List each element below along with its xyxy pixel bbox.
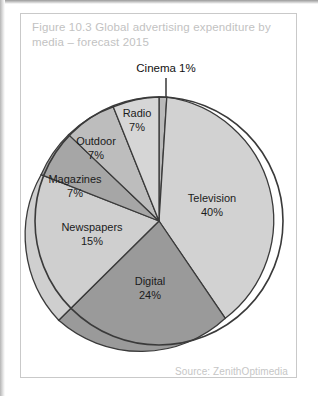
label-magazines-value: 7% [67, 187, 83, 199]
label-outdoor-name: Outdoor [76, 135, 116, 147]
label-digital-value: 24% [139, 289, 161, 301]
label-magazines-name: Magazines [48, 173, 102, 185]
label-cinema: Cinema 1% [136, 62, 195, 74]
label-digital-name: Digital [135, 275, 166, 287]
label-newspapers-value: 15% [81, 235, 103, 247]
label-television-name: Television [188, 192, 236, 204]
pie-chart: Cinema 1% Television 40% Digital 24% New… [0, 0, 318, 396]
source-note: Source: ZenithOptimedia [175, 366, 288, 377]
pie-chart-svg: Cinema 1% Television 40% Digital 24% New… [0, 0, 318, 396]
label-radio-value: 7% [129, 121, 145, 133]
label-outdoor-value: 7% [88, 149, 104, 161]
label-newspapers-name: Newspapers [61, 221, 123, 233]
label-television-value: 40% [201, 206, 223, 218]
label-radio-name: Radio [123, 107, 152, 119]
